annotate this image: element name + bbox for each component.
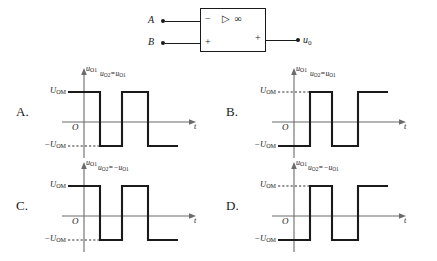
option-b-y-axis-label: uO1 [296,64,307,73]
option-c-panel[interactable]: C. uO1 t UOM −UOM [14,160,220,261]
option-c-relation-label: uO2=−uO1 [98,163,129,172]
option-d-x-axis-label: t [404,216,406,225]
option-b-relation-label: uO2=uO1 [310,69,336,78]
option-a-relation-label: uO2=uO1 [100,69,126,78]
noninverting-input-sign: + [205,37,211,47]
option-c-origin-label: O [72,216,79,226]
figure-canvas: A B − + ▷ ∞ + uo A. [0,0,437,261]
option-a-panel[interactable]: A. uO1 t UOM [14,66,220,170]
amplifier-symbol-icon: ▷ ∞ [222,13,243,24]
output-terminal-node [296,38,300,42]
option-b-panel[interactable]: B. uO1 t UOM −UOM [224,66,430,170]
input-terminal-b-label: B [148,36,154,47]
option-a-origin-label: O [72,122,79,132]
option-a-y-axis-label: uO1 [86,64,97,73]
output-terminal-label: uo [303,34,312,47]
option-b-low-tick-label: −UOM [240,139,276,149]
option-a-waveform-plot: uO1 t UOM −UOM O uO2=uO1 [38,66,218,162]
option-a-x-axis-label: t [194,122,196,131]
option-c-high-tick-label: UOM [34,179,66,189]
option-d-high-tick-label: UOM [244,179,276,189]
option-a-letter: A. [16,104,29,120]
input-terminal-a-label: A [148,14,154,25]
opamp-circuit: A B − + ▷ ∞ + uo [148,4,308,64]
option-c-waveform-plot: uO1 t UOM −UOM O uO2=−uO1 [38,160,218,256]
option-c-y-axis-label: uO1 [86,158,97,167]
option-c-low-tick-label: −UOM [30,233,66,243]
option-b-high-tick-label: UOM [244,85,276,95]
option-d-y-axis-label: uO1 [296,158,307,167]
option-b-waveform-plot: uO1 t UOM −UOM O uO2=uO1 [248,66,428,162]
option-c-letter: C. [16,198,28,214]
input-wire-a [165,21,200,22]
inverting-input-sign: − [205,14,211,24]
option-d-origin-label: O [282,216,289,226]
option-b-x-axis-label: t [404,122,406,131]
option-a-high-tick-label: UOM [34,85,66,95]
option-d-panel[interactable]: D. uO1 t UOM −UOM [224,160,430,261]
option-c-x-axis-label: t [194,216,196,225]
output-wire [266,40,297,41]
option-d-waveform-plot: uO1 t UOM −UOM O uO2=−uO1 [248,160,428,256]
option-b-origin-label: O [282,122,289,132]
option-d-relation-label: uO2=−uO1 [308,163,339,172]
option-b-letter: B. [226,104,238,120]
option-a-low-tick-label: −UOM [30,139,66,149]
option-d-letter: D. [226,198,239,214]
output-terminal-sign: + [255,33,261,43]
input-wire-b [165,43,200,44]
option-d-low-tick-label: −UOM [240,233,276,243]
